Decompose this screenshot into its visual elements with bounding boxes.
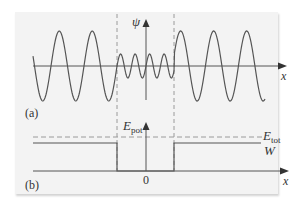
panel-a-label: (a) [25,106,38,120]
origin-label: 0 [143,173,149,187]
epot-label: Epot [122,118,143,135]
x-label-a: x [280,69,287,83]
wavefunction-diagram: ψ x (a) Epot Etot W 0 x (b) [0,0,301,207]
x-label-b: x [282,174,289,188]
panel-b-label: (b) [25,178,39,192]
panel-a: ψ x (a) [25,14,287,170]
panel-b: Epot Etot W 0 x (b) [25,118,289,192]
psi-axis-arrow-icon [143,19,150,27]
epot-axis-arrow-icon [143,122,150,130]
w-label: W [264,143,276,158]
potential-well [33,143,261,171]
psi-label: ψ [132,14,141,29]
